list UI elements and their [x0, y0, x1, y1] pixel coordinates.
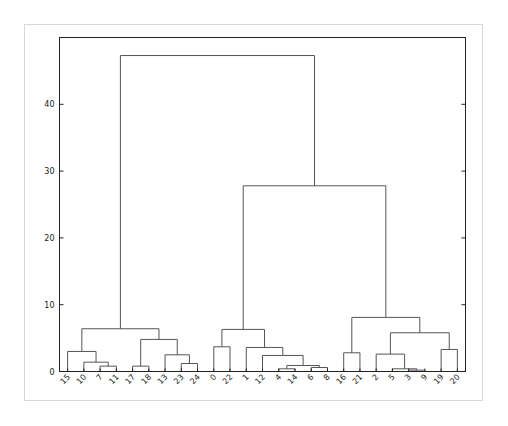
dendrogram-link [243, 186, 386, 330]
dendrogram-link [214, 347, 230, 372]
leaf-label: 19 [432, 373, 446, 387]
dendrogram-link [344, 353, 360, 372]
leaf-label: 17 [123, 373, 137, 387]
leaf-label: 14 [286, 373, 300, 387]
dendrogram-link [82, 329, 159, 352]
y-tick-label: 0 [49, 368, 54, 377]
leaf-label: 10 [75, 373, 89, 387]
dendrogram-link [441, 349, 457, 371]
leaf-label: 0 [208, 373, 218, 383]
dendrogram-link [84, 362, 108, 371]
dendrogram-link [141, 339, 178, 366]
dendrogram-link [222, 329, 265, 347]
dendrogram-link [246, 347, 283, 371]
leaf-label: 20 [448, 373, 462, 387]
dendrogram-link [311, 367, 327, 371]
leaf-label: 9 [419, 373, 429, 383]
dendrogram-link [68, 351, 96, 371]
leaf-label: 16 [335, 373, 349, 387]
leaf-label: 2 [371, 373, 381, 383]
dendrogram-link [390, 333, 449, 354]
leaf-label: 4 [273, 373, 283, 383]
leaf-label: 11 [107, 373, 121, 387]
leaf-label: 12 [253, 373, 267, 387]
dendrogram-link [120, 56, 314, 329]
leaf-label: 15 [58, 373, 72, 387]
dendrogram-chart: 010203040 151071117181323240221124146816… [0, 0, 508, 426]
leaf-label: 6 [306, 373, 316, 383]
leaf-label: 22 [221, 373, 235, 387]
leaf-label: 7 [95, 373, 105, 383]
dendrogram-link [181, 363, 197, 371]
y-tick-label: 20 [44, 234, 54, 243]
dendrogram-links [68, 56, 458, 372]
y-tick-label: 40 [44, 100, 54, 109]
dendrogram-link [352, 317, 420, 352]
y-tick-label: 30 [44, 167, 54, 176]
y-tick-label: 10 [44, 301, 54, 310]
y-axis: 010203040 [44, 100, 465, 376]
leaf-label: 23 [172, 373, 186, 387]
dendrogram-link [133, 366, 149, 371]
leaf-label: 1 [241, 373, 251, 383]
leaf-label: 21 [351, 373, 365, 387]
leaf-label: 18 [140, 373, 154, 387]
leaf-label: 24 [188, 373, 202, 387]
leaf-label: 3 [403, 373, 413, 383]
leaf-label: 8 [322, 373, 332, 383]
dendrogram-link [100, 366, 116, 371]
leaf-label: 13 [156, 373, 170, 387]
leaf-label: 5 [387, 373, 397, 383]
